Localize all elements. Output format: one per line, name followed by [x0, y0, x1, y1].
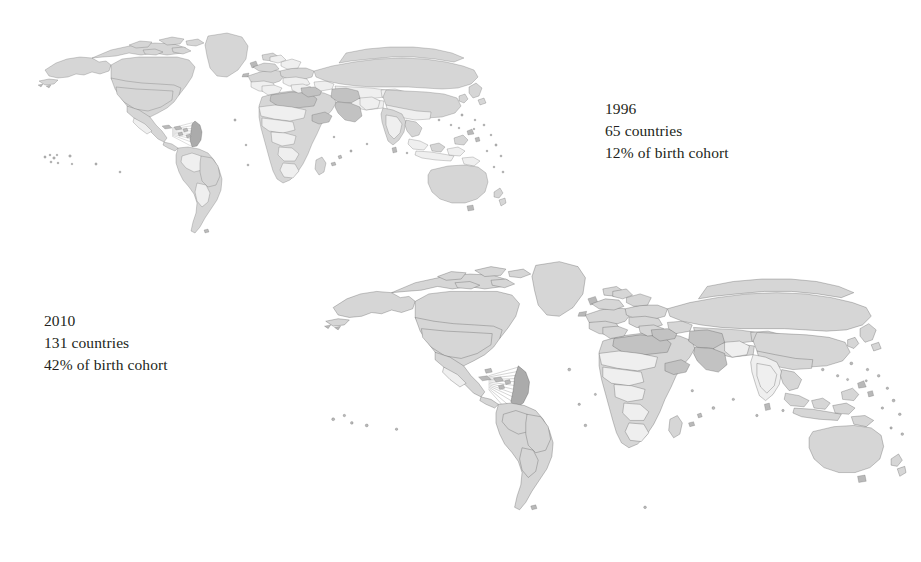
world-map-1996-svg: [36, 22, 506, 238]
figure-canvas: 1996 65 countries 12% of birth cohort 20…: [0, 0, 921, 562]
annotation-1996-year: 1996: [605, 98, 729, 120]
annotation-1996-cohort: 12% of birth cohort: [605, 142, 729, 164]
annotation-2010: 2010 131 countries 42% of birth cohort: [44, 310, 168, 376]
annotation-1996-countries: 65 countries: [605, 120, 729, 142]
annotation-2010-cohort: 42% of birth cohort: [44, 354, 168, 376]
annotation-1996: 1996 65 countries 12% of birth cohort: [605, 98, 729, 164]
world-map-1996: [36, 22, 506, 238]
map-1996-landmasses: [38, 33, 506, 233]
map-2010-landmasses: [324, 262, 906, 510]
annotation-2010-countries: 131 countries: [44, 332, 168, 354]
world-map-2010: [322, 248, 906, 516]
world-map-2010-svg: [322, 248, 906, 516]
annotation-2010-year: 2010: [44, 310, 168, 332]
